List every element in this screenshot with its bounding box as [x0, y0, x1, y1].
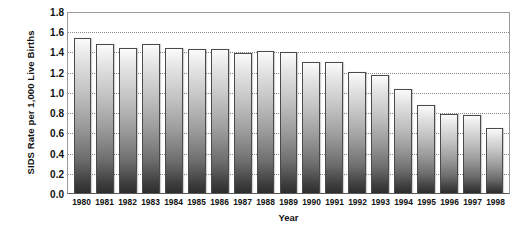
bar-slot [300, 13, 323, 193]
bar [74, 38, 92, 193]
x-tick-label: 1986 [208, 195, 231, 211]
y-axis-tick-labels: 1.81.61.41.21.00.80.60.40.20.0 [34, 0, 64, 237]
x-tick-label: 1993 [369, 195, 392, 211]
bar-slot [140, 13, 163, 193]
bar-slot [414, 13, 437, 193]
bar-slot [323, 13, 346, 193]
x-tick-label: 1984 [162, 195, 185, 211]
bar [486, 128, 504, 193]
y-tick-label: 1.2 [34, 67, 64, 78]
sids-rate-bar-chart: SIDS Rate per 1,000 Live Births 1.81.61.… [0, 0, 522, 237]
y-tick-label: 0.0 [34, 189, 64, 200]
y-tick-label: 1.0 [34, 87, 64, 98]
y-tick-label: 0.2 [34, 168, 64, 179]
x-axis-tick-labels: 1980198119821983198419851986198719881989… [67, 195, 510, 211]
y-tick-label: 0.4 [34, 148, 64, 159]
x-tick-label: 1997 [461, 195, 484, 211]
bar-slot [208, 13, 231, 193]
x-tick-label: 1996 [438, 195, 461, 211]
bar [325, 62, 343, 193]
y-tick-label: 1.8 [34, 7, 64, 18]
bar-slot [94, 13, 117, 193]
y-tick-label: 0.6 [34, 128, 64, 139]
x-tick-label: 1994 [392, 195, 415, 211]
y-tick-label: 1.4 [34, 47, 64, 58]
bar-slot [231, 13, 254, 193]
bar [394, 89, 412, 193]
x-tick-label: 1988 [254, 195, 277, 211]
x-tick-label: 1980 [70, 195, 93, 211]
bar [440, 114, 458, 193]
bar [280, 52, 298, 193]
bar [96, 44, 114, 193]
bar-slot [254, 13, 277, 193]
x-tick-label: 1982 [116, 195, 139, 211]
bar-series [68, 13, 509, 193]
x-tick-label: 1995 [415, 195, 438, 211]
bar [463, 115, 481, 193]
bar-slot [185, 13, 208, 193]
x-tick-label: 1981 [93, 195, 116, 211]
x-axis-title: Year [67, 212, 510, 223]
bar-slot [277, 13, 300, 193]
bar-slot [117, 13, 140, 193]
bar [257, 51, 275, 193]
y-tick-label: 1.6 [34, 27, 64, 38]
x-tick-label: 1990 [300, 195, 323, 211]
x-tick-label: 1992 [346, 195, 369, 211]
bar [371, 75, 389, 193]
bar-slot [391, 13, 414, 193]
bar [417, 105, 435, 193]
y-tick-label: 0.8 [34, 108, 64, 119]
bar-slot [71, 13, 94, 193]
bar-slot [460, 13, 483, 193]
x-tick-label: 1991 [323, 195, 346, 211]
bar [142, 44, 160, 193]
bar-slot [483, 13, 506, 193]
x-tick-label: 1989 [277, 195, 300, 211]
bar [348, 72, 366, 193]
bar-slot [369, 13, 392, 193]
bar [211, 49, 229, 193]
bar [188, 49, 206, 193]
x-tick-label: 1987 [231, 195, 254, 211]
bar [234, 53, 252, 193]
bar [302, 62, 320, 193]
x-tick-label: 1985 [185, 195, 208, 211]
bar [165, 48, 183, 193]
bar-slot [437, 13, 460, 193]
bar [119, 48, 137, 193]
plot-area [67, 12, 510, 194]
x-tick-label: 1983 [139, 195, 162, 211]
bar-slot [163, 13, 186, 193]
x-tick-label: 1998 [484, 195, 507, 211]
bar-slot [346, 13, 369, 193]
